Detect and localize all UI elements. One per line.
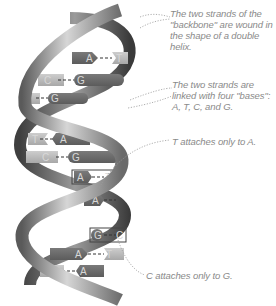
svg-text:G: G (51, 93, 59, 104)
svg-text:C: C (44, 75, 51, 86)
base-pair-a-t: A T (72, 52, 128, 64)
svg-text:A: A (86, 53, 93, 64)
dna-diagram: A T C G C G (0, 0, 276, 306)
svg-text:T: T (116, 53, 122, 64)
svg-text:C: C (116, 230, 123, 241)
svg-text:T: T (106, 249, 112, 260)
svg-text:A: A (77, 172, 84, 183)
base-pair-c-g: C G (26, 151, 120, 163)
svg-text:A: A (80, 266, 87, 277)
annotation-c-attaches-g: C attaches only to G. (146, 270, 276, 281)
svg-text:C: C (42, 152, 49, 163)
svg-text:A: A (60, 134, 67, 145)
svg-text:G: G (94, 230, 102, 241)
base-pair-c-g: C G (38, 74, 124, 86)
annotation-t-attaches-a: T attaches only to A. (172, 136, 276, 147)
svg-text:T: T (32, 134, 38, 145)
svg-text:A: A (75, 249, 82, 260)
annotation-backbone: The two strands of the "backbone" are wo… (170, 8, 274, 52)
svg-text:G: G (72, 152, 80, 163)
svg-text:G: G (77, 75, 85, 86)
annotation-bases: The two strands are linked with four "ba… (172, 79, 276, 112)
